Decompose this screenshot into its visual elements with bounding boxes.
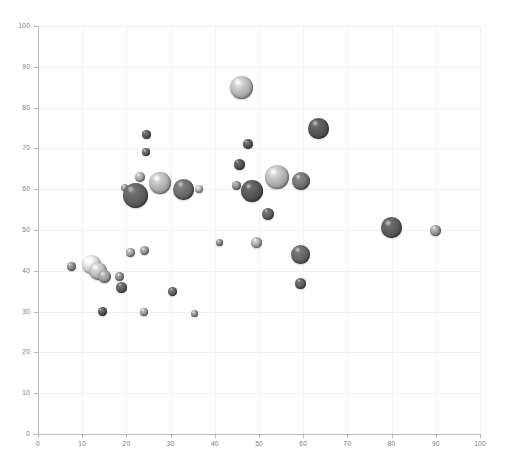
bubble-highlight: [118, 283, 122, 286]
bubble-point: [241, 180, 263, 202]
y-axis-tick-label: 50: [0, 226, 30, 233]
gridline-horizontal: [38, 108, 480, 109]
bubble-point: [265, 165, 289, 189]
x-axis-tick: [347, 434, 348, 438]
bubble-highlight: [126, 186, 135, 193]
bubble-point: [191, 310, 198, 317]
bubble-highlight: [141, 308, 144, 310]
x-axis-tick: [303, 434, 304, 438]
bubble-highlight: [99, 308, 102, 310]
x-axis-tick-label: 100: [465, 440, 495, 447]
bubble-highlight: [192, 311, 194, 313]
bubble-point: [123, 183, 148, 208]
x-axis-tick-label: 30: [156, 440, 186, 447]
gridline-horizontal: [38, 393, 480, 394]
y-axis-tick-label: 90: [0, 63, 30, 70]
x-axis-tick: [392, 434, 393, 438]
bubble-highlight: [117, 273, 120, 275]
bubble-highlight: [136, 173, 140, 176]
x-axis-tick-label: 0: [23, 440, 53, 447]
bubble-highlight: [432, 226, 436, 229]
x-axis-tick: [215, 434, 216, 438]
bubble-highlight: [91, 264, 97, 269]
x-axis-tick-label: 80: [377, 440, 407, 447]
bubble-highlight: [143, 149, 146, 151]
x-axis-tick-label: 70: [332, 440, 362, 447]
x-axis-tick-label: 10: [67, 440, 97, 447]
x-axis-tick: [436, 434, 437, 438]
bubble-point: [381, 217, 402, 238]
bubble-point: [126, 248, 135, 257]
x-axis-tick-label: 50: [244, 440, 274, 447]
bubble-highlight: [384, 220, 391, 226]
bubble-highlight: [128, 249, 131, 251]
bubble-point: [234, 159, 245, 170]
bubble-highlight: [217, 240, 219, 242]
bubble-point: [195, 185, 203, 193]
y-axis-tick-label: 30: [0, 308, 30, 315]
y-axis-tick: [34, 26, 38, 27]
y-axis-tick: [34, 312, 38, 313]
y-axis-tick-label: 70: [0, 144, 30, 151]
bubble-point: [292, 172, 310, 190]
bubble-highlight: [68, 263, 71, 265]
y-axis-tick-label: 20: [0, 348, 30, 355]
bubble-highlight: [295, 174, 301, 179]
y-axis-tick: [34, 352, 38, 353]
bubble-highlight: [197, 186, 200, 188]
bubble-point: [140, 246, 149, 255]
y-axis-tick: [34, 230, 38, 231]
bubble-point: [135, 172, 145, 182]
bubble-highlight: [245, 183, 253, 189]
bubble-highlight: [234, 182, 237, 184]
gridline-horizontal: [38, 26, 480, 27]
y-axis-tick: [34, 148, 38, 149]
bubble-point: [140, 308, 148, 316]
x-axis-tick: [480, 434, 481, 438]
bubble-point: [230, 76, 253, 99]
gridline-vertical: [480, 26, 481, 434]
y-axis-tick: [34, 189, 38, 190]
bubble-highlight: [84, 257, 91, 262]
caption-strip: [0, 452, 505, 465]
plot-area: [38, 26, 480, 434]
y-axis-tick: [34, 271, 38, 272]
bubble-highlight: [264, 209, 268, 212]
y-axis-tick-label: 0: [0, 430, 30, 437]
bubble-highlight: [177, 181, 184, 187]
bubble-point: [295, 278, 306, 289]
y-axis-line: [38, 26, 39, 435]
x-axis-tick: [259, 434, 260, 438]
bubble-point: [115, 272, 124, 281]
bubble-highlight: [152, 174, 160, 180]
bubble-point: [142, 148, 150, 156]
y-axis-tick-label: 100: [0, 22, 30, 29]
y-axis-tick: [34, 108, 38, 109]
x-axis-tick-label: 60: [288, 440, 318, 447]
gridline-horizontal: [38, 352, 480, 353]
bubble-highlight: [100, 272, 105, 276]
x-axis-tick: [38, 434, 39, 438]
y-axis-tick-label: 40: [0, 267, 30, 274]
bubble-point: [149, 172, 171, 194]
bubble-highlight: [170, 288, 173, 290]
bubble-point: [291, 245, 310, 264]
bubble-highlight: [297, 279, 301, 282]
y-axis-tick-label: 80: [0, 104, 30, 111]
bubble-point: [232, 181, 241, 190]
gridline-horizontal: [38, 148, 480, 149]
y-axis-tick: [34, 393, 38, 394]
y-axis-tick: [34, 67, 38, 68]
bubble-point: [262, 208, 274, 220]
bubble-chart: 0102030405060708090100 01020304050607080…: [0, 0, 505, 465]
bubble-highlight: [143, 131, 146, 133]
bubble-point: [216, 239, 223, 246]
bubble-highlight: [235, 160, 239, 163]
y-axis-tick-label: 60: [0, 185, 30, 192]
bubble-highlight: [141, 247, 144, 249]
gridline-horizontal: [38, 67, 480, 68]
bubble-point: [430, 225, 441, 236]
bubble-point: [67, 262, 76, 271]
bubble-highlight: [244, 140, 248, 143]
bubble-point: [251, 237, 262, 248]
